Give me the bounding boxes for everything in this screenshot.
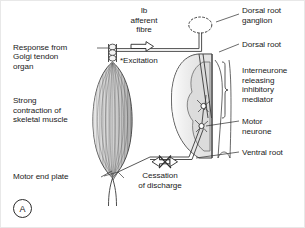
dorsal-root-ganglion: [189, 17, 212, 33]
label-excitation: *Excitation: [120, 56, 186, 66]
label-dorsal-root: Dorsal root: [242, 40, 304, 50]
label-strong-contraction: Strong contraction of skeletal muscle: [13, 96, 109, 125]
label-ib-afferent-fibre: Ib afferent fibre: [116, 6, 172, 35]
interneurone-brace: [222, 62, 228, 118]
cord-contour-outer: [229, 60, 231, 158]
ib-afferent-fibre: [116, 32, 202, 51]
label-dorsal-root-ganglion: Dorsal root ganglion: [242, 6, 304, 25]
excitation-arrow-right: [131, 42, 154, 52]
label-interneurone: Interneurone releasing inhibitory mediat…: [242, 66, 305, 104]
label-motor-end-plate: Motor end plate: [13, 172, 99, 182]
panel-label-a: A: [13, 199, 32, 218]
label-ventral-root: Ventral root: [242, 148, 302, 158]
golgi-tendon-organ: [109, 44, 116, 61]
lower-tendon: [109, 178, 117, 206]
label-golgi-tendon-organ: Response from Golgi tendon organ: [13, 43, 105, 72]
label-motor-neurone: Motor neurone: [242, 117, 302, 136]
cord-contour: [215, 60, 222, 158]
label-cessation-of-discharge: Cessation of discharge: [130, 171, 190, 190]
